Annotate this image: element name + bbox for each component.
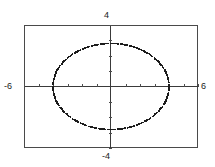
y-axis-tick	[109, 133, 112, 134]
y-axis-max-label: 4	[104, 11, 109, 20]
x-axis-tick	[169, 84, 170, 87]
x-axis-tick	[82, 84, 83, 87]
x-axis-tick	[184, 84, 185, 87]
x-axis-tick	[155, 84, 156, 87]
y-axis	[110, 25, 111, 148]
x-axis-tick	[198, 84, 199, 87]
y-axis-tick	[109, 71, 112, 72]
y-axis-tick	[109, 25, 112, 26]
x-axis-tick	[68, 84, 69, 87]
graph-screenshot: 4 -4 -6 6	[0, 0, 215, 167]
y-axis-tick	[109, 40, 112, 41]
y-axis-tick	[109, 117, 112, 118]
x-axis-max-label: 6	[201, 82, 206, 91]
x-axis-tick	[97, 84, 98, 87]
y-axis-min-label: -4	[102, 152, 110, 161]
x-axis-tick	[39, 84, 40, 87]
x-axis-tick	[126, 84, 127, 87]
x-axis-tick	[24, 84, 25, 87]
y-axis-tick	[109, 148, 112, 149]
x-axis-tick	[140, 84, 141, 87]
x-axis-tick	[53, 84, 54, 87]
y-axis-tick	[109, 56, 112, 57]
y-axis-tick	[109, 102, 112, 103]
x-axis-min-label: -6	[4, 82, 12, 91]
